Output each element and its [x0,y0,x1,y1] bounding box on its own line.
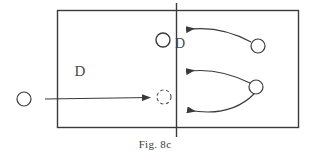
zone-label-d-left: D [75,63,86,79]
figure-caption: Fig. 8c [0,138,310,150]
arrow-curve-middle-right-to-net-upper [187,71,250,83]
player-center-setter [156,33,170,47]
zone-label-d-center: D [175,36,185,51]
figure-container: D D Fig. 8c [0,0,310,167]
player-right-middle [249,80,263,94]
arrow-curve-middle-right-to-net-lower [188,94,254,112]
player-left-outside [17,92,31,106]
arrow-curve-top-right-to-net [187,29,251,42]
volleyball-court-rectangle [58,11,299,128]
player-target-dashed [157,90,171,104]
player-right-top [251,39,265,53]
arrow-straight-left-to-target [45,98,150,100]
